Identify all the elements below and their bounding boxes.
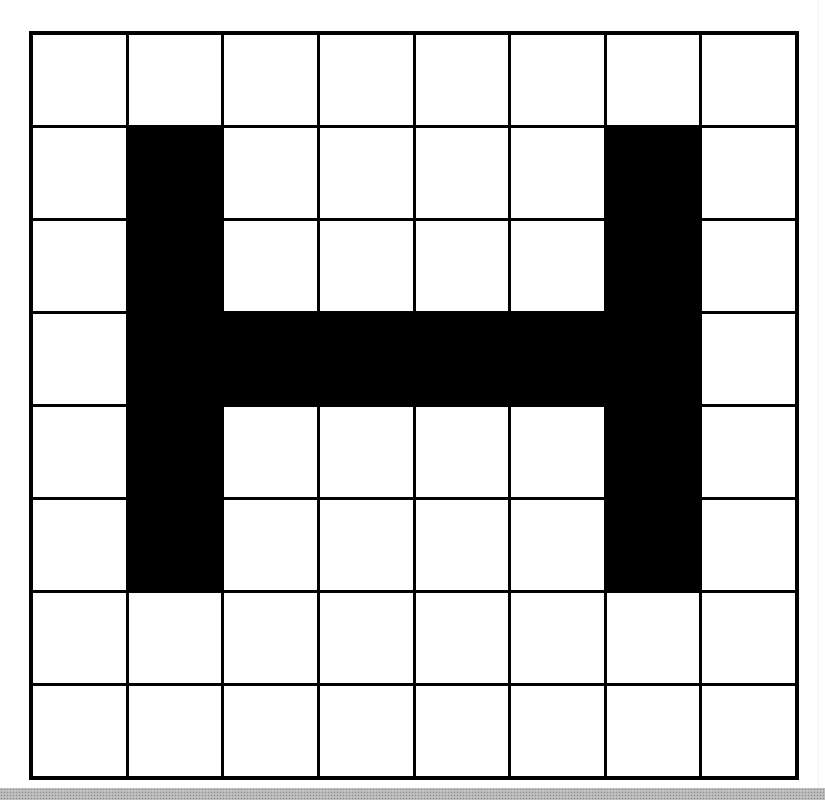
grid-cell-empty [33,407,126,497]
grid-cell-empty [33,35,126,125]
grid-cell-empty [702,314,795,404]
grid-cell-empty [416,35,509,125]
grid-cell-empty [33,500,126,590]
grid-cell-empty [33,686,126,776]
grid-cell-filled [129,128,222,218]
grid-cell-filled [129,221,222,311]
letter-stroke [129,496,222,501]
grid-cell-empty [511,500,604,590]
letter-stroke [603,314,608,404]
grid-cell-empty [416,407,509,497]
grid-cell-filled [607,500,700,590]
grid-cell-empty [511,35,604,125]
scan-edge-line [818,0,819,788]
grid-cell-filled [607,128,700,218]
letter-stroke [607,496,700,501]
grid-cell-empty [607,35,700,125]
grid-cell-empty [224,500,317,590]
grid-cell-empty [607,686,700,776]
grid-cell-empty [224,686,317,776]
grid-cell-empty [224,593,317,683]
grid-cell-empty [320,128,413,218]
grid-cell-empty [607,593,700,683]
grid-cell-empty [129,593,222,683]
grid-cell-filled [320,314,413,404]
grid-cell-empty [320,35,413,125]
grid-cell-empty [320,407,413,497]
letter-stroke [607,403,700,408]
grid-cell-empty [224,128,317,218]
grid-cell-filled [416,314,509,404]
letter-stroke [129,217,222,222]
grid-cell-empty [416,593,509,683]
letter-stroke [607,217,700,222]
grid-cell-filled [511,314,604,404]
grid-cell-empty [33,314,126,404]
grid-cell-empty [224,221,317,311]
grid-cell-empty [320,221,413,311]
grid-cell-filled [129,500,222,590]
grid-cell-empty [416,128,509,218]
grid-cell-empty [33,593,126,683]
grid-cell-filled [607,221,700,311]
grid-cell-empty [511,128,604,218]
grid-cell-empty [511,686,604,776]
grid-cell-empty [702,686,795,776]
grid-cell-empty [511,593,604,683]
grid-cell-filled [607,314,700,404]
grid-cell-empty [702,407,795,497]
letter-stroke [316,314,321,404]
grid-cell-empty [33,221,126,311]
grid-cell-empty [702,500,795,590]
letter-stroke [607,310,700,315]
grid-cell-empty [320,500,413,590]
grid-cell-empty [129,35,222,125]
grid-cell-filled [607,407,700,497]
grid-cell-empty [320,593,413,683]
letter-stroke [507,314,512,404]
grid-cell-empty [511,407,604,497]
grid-cell-empty [702,35,795,125]
grid-cell-empty [702,221,795,311]
grid-cell-empty [416,221,509,311]
letter-stroke [412,314,417,404]
grid-cell-empty [416,500,509,590]
grid-cell-empty [33,128,126,218]
grid-cell-empty [129,686,222,776]
grid-cell-filled [129,407,222,497]
grid-cell-filled [129,314,222,404]
grid-cell-empty [224,407,317,497]
grid-cell-empty [416,686,509,776]
grid-cell-empty [702,128,795,218]
bottom-gray-band [0,788,825,800]
letter-stroke [220,314,225,404]
grid-cell-empty [320,686,413,776]
grid-cell-empty [224,35,317,125]
grid-cell-empty [702,593,795,683]
grid-cell-filled [224,314,317,404]
letter-stroke [129,310,222,315]
grid-cell-empty [511,221,604,311]
letter-stroke [129,403,222,408]
